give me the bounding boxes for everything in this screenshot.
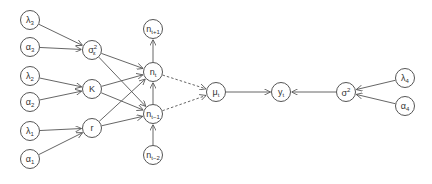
node-y-t: yt — [271, 82, 291, 102]
edge-alpha4-to-sigma2 — [356, 94, 395, 103]
edge-K-to-n-t — [102, 75, 143, 86]
node-lambda1: λ1 — [20, 121, 40, 141]
edge-alpha3-to-sigma-eps — [40, 47, 82, 49]
edge-alpha1-to-r — [39, 133, 83, 155]
node-lambda3: λ3 — [20, 10, 40, 30]
node-label: nt — [150, 67, 157, 78]
node-alpha2: α2 — [20, 92, 40, 112]
node-label: σ2 — [342, 87, 351, 98]
node-sigma-eps: σ2ε — [82, 40, 102, 60]
node-label: α2 — [26, 97, 35, 108]
node-label: λ1 — [26, 126, 34, 137]
edge-alpha2-to-K — [40, 91, 82, 100]
edge-lambda4-to-sigma2 — [356, 80, 395, 89]
node-label: α4 — [401, 101, 410, 112]
node-label: nt+1 — [146, 24, 160, 35]
node-r: r — [82, 118, 102, 138]
node-label: yt — [278, 87, 284, 98]
node-alpha3: α3 — [20, 37, 40, 57]
node-label: nt−2 — [146, 150, 160, 161]
node-label: K — [89, 84, 95, 94]
node-n-t-minus-2: nt−2 — [143, 145, 163, 165]
node-mu-t: μt — [206, 82, 226, 102]
graphical-model-diagram: λ3α3λ2α2λ1α1σ2εKrnt+1ntnt−1nt−2μtytσ2λ4α… — [0, 0, 432, 184]
edge-sigma-eps-to-n-t-minus-1 — [99, 57, 146, 106]
edge-lambda3-to-sigma-eps — [39, 24, 83, 45]
edge-lambda2-to-K — [40, 78, 82, 87]
node-K: K — [82, 79, 102, 99]
node-label: σ2ε — [88, 44, 96, 56]
node-label: α1 — [26, 154, 35, 165]
node-label: λ3 — [26, 15, 34, 26]
node-label: r — [91, 123, 94, 133]
node-lambda2: λ2 — [20, 66, 40, 86]
node-label: α3 — [26, 42, 35, 53]
node-alpha1: α1 — [20, 149, 40, 169]
node-alpha4: α4 — [395, 96, 415, 116]
edge-r-to-n-t-minus-1 — [102, 116, 143, 125]
node-label: μt — [213, 87, 220, 98]
node-label: λ2 — [26, 71, 34, 82]
edge-n-t-minus-1-to-mu-t — [162, 95, 206, 110]
node-label: nt−1 — [146, 109, 160, 120]
node-n-t: nt — [143, 62, 163, 82]
node-label: λ4 — [401, 73, 409, 84]
edge-n-t-to-mu-t — [163, 75, 206, 89]
edge-lambda1-to-r — [40, 129, 82, 131]
node-n-t-plus-1: nt+1 — [143, 19, 163, 39]
node-sigma2: σ2 — [336, 82, 356, 102]
node-n-t-minus-1: nt−1 — [143, 104, 163, 124]
node-lambda4: λ4 — [395, 68, 415, 88]
edge-K-to-n-t-minus-1 — [101, 93, 143, 110]
